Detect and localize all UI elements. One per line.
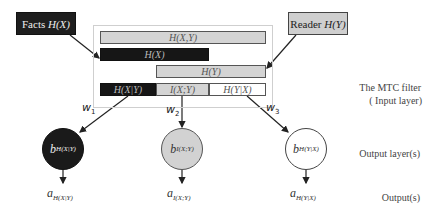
weight-label-3: w3 — [266, 101, 279, 116]
label-mtc-filter: The MTC filter — [359, 82, 421, 93]
output-mutual: aI(X;Y) — [167, 186, 191, 202]
bar-mutual-information: I(X;Y) — [156, 83, 209, 96]
weight-label-2: w2 — [166, 103, 179, 118]
label-input-layer: ( Input layer) — [369, 95, 422, 106]
facts-source-box: Facts H(X) — [16, 12, 76, 35]
reader-symbol: H(Y) — [324, 18, 345, 30]
bar-entropy-x: H(X) — [100, 48, 209, 61]
label-outputs: Output(s) — [382, 192, 420, 203]
bar-conditional-y-given-x: H(Y|X) — [209, 83, 266, 96]
bar-entropy-y: H(Y) — [156, 65, 266, 78]
facts-symbol: H(X) — [48, 18, 70, 30]
output-node-mutual: bI(X;Y) — [161, 128, 203, 170]
reader-label: Reader — [290, 18, 321, 30]
weight-label-1: w1 — [82, 101, 95, 116]
output-node-conditional-y: bH(Y|X) — [285, 128, 327, 170]
output-node-conditional-x: bH(X|Y) — [42, 128, 84, 170]
facts-label: Facts — [22, 18, 45, 30]
output-conditional-x: aH(X|Y) — [47, 186, 73, 202]
label-output-layers: Output layer(s) — [359, 148, 420, 159]
bar-joint-entropy: H(X,Y) — [100, 31, 266, 44]
bar-conditional-x-given-y: H(X|Y) — [100, 83, 156, 96]
output-conditional-y: aH(Y|X) — [290, 186, 316, 202]
reader-source-box: Reader H(Y) — [288, 12, 348, 35]
